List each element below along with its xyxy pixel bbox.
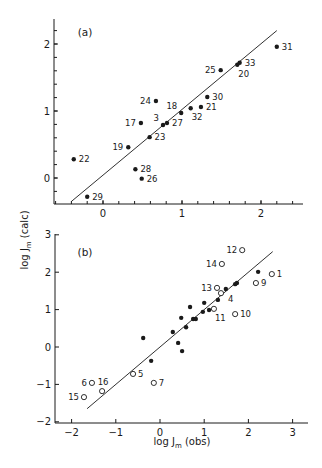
point-label: 3: [154, 113, 159, 123]
filled-data-point: [171, 330, 175, 334]
x-tick-label: 2: [245, 427, 251, 438]
point-label: 33: [245, 58, 256, 68]
panel-a: 012012(a)2229282619231732724183221302520…: [44, 19, 303, 219]
filled-data-point: [199, 105, 203, 109]
point-label: 21: [206, 102, 217, 112]
y-tick-label: −2: [36, 416, 51, 427]
filled-data-point: [179, 111, 183, 115]
point-label: 27: [172, 118, 183, 128]
point-label: 19: [112, 142, 123, 152]
open-data-point: [269, 271, 274, 276]
point-label: 7: [159, 378, 164, 388]
y-tick-label: 3: [45, 229, 51, 240]
filled-data-point: [219, 68, 223, 72]
x-tick-label: 3: [289, 427, 295, 438]
point-label: 9: [261, 278, 266, 288]
point-label: 4: [228, 294, 233, 304]
open-data-point: [233, 311, 238, 316]
open-data-point: [89, 380, 94, 385]
filled-data-point: [85, 195, 89, 199]
figure: 012012(a)2229282619231732724183221302520…: [0, 0, 322, 468]
point-label: 6: [82, 378, 87, 388]
panel-label: (b): [78, 246, 93, 258]
point-label: 30: [212, 92, 223, 102]
y-tick-label: 1: [45, 304, 51, 315]
filled-data-point: [149, 359, 153, 363]
panel-label: (a): [78, 26, 93, 38]
filled-data-point: [235, 281, 239, 285]
filled-data-point: [256, 270, 260, 274]
open-data-point: [240, 248, 245, 253]
filled-data-point: [201, 310, 205, 314]
filled-data-point: [224, 287, 228, 291]
point-label: 16: [98, 377, 109, 387]
point-label: 26: [147, 174, 158, 184]
x-tick-label: −2: [64, 427, 79, 438]
x-tick-label: 2: [258, 208, 264, 219]
point-label: 20: [238, 69, 249, 79]
open-data-point: [253, 280, 258, 285]
panel-b: −2−10123−2−10123(b)14567910111213141516: [36, 229, 308, 438]
open-data-point: [81, 395, 86, 400]
filled-data-point: [165, 121, 169, 125]
point-label: 22: [79, 154, 90, 164]
filled-data-point: [72, 157, 76, 161]
point-label: 10: [240, 309, 251, 319]
filled-data-point: [180, 349, 184, 353]
open-data-point: [211, 306, 216, 311]
filled-data-point: [188, 106, 192, 110]
filled-data-point: [161, 123, 165, 127]
y-axis-title: log Jm (calc): [19, 210, 33, 269]
x-tick-label: 0: [100, 208, 106, 219]
filled-data-point: [207, 308, 211, 312]
filled-data-point: [194, 317, 198, 321]
y-tick-label: 2: [45, 267, 51, 278]
filled-data-point: [126, 145, 130, 149]
y-tick-label: 0: [45, 342, 51, 353]
filled-data-point: [139, 121, 143, 125]
open-data-point: [214, 285, 219, 290]
filled-data-point: [179, 316, 183, 320]
y-tick-label: −1: [36, 379, 51, 390]
open-data-point: [99, 389, 104, 394]
open-data-point: [130, 371, 135, 376]
filled-data-point: [176, 341, 180, 345]
point-label: 24: [140, 96, 151, 106]
point-label: 12: [226, 245, 237, 255]
filled-data-point: [147, 135, 151, 139]
filled-data-point: [141, 336, 145, 340]
x-tick-label: 1: [179, 208, 185, 219]
filled-data-point: [154, 99, 158, 103]
y-tick-label: 2: [44, 39, 50, 50]
point-label: 31: [282, 42, 293, 52]
filled-data-point: [202, 301, 206, 305]
point-label: 18: [166, 101, 177, 111]
point-label: 14: [206, 259, 217, 269]
point-label: 11: [215, 313, 226, 323]
point-label: 17: [125, 118, 136, 128]
y-tick-label: 0: [44, 173, 50, 184]
point-label: 5: [138, 369, 143, 379]
filled-data-point: [140, 176, 144, 180]
regression-line: [71, 31, 276, 202]
filled-data-point: [188, 305, 192, 309]
point-label: 32: [192, 112, 203, 122]
chart-canvas: 012012(a)2229282619231732724183221302520…: [0, 0, 322, 468]
filled-data-point: [237, 61, 241, 65]
filled-data-point: [133, 167, 137, 171]
open-data-point: [151, 380, 156, 385]
point-label: 13: [201, 283, 212, 293]
filled-data-point: [205, 95, 209, 99]
point-label: 23: [155, 132, 166, 142]
open-data-point: [219, 261, 224, 266]
y-tick-label: 1: [44, 106, 50, 117]
point-label: 25: [205, 65, 216, 75]
filled-data-point: [216, 298, 220, 302]
filled-data-point: [184, 325, 188, 329]
axes: [54, 19, 303, 204]
regression-line: [87, 252, 273, 409]
filled-data-point: [275, 44, 279, 48]
x-tick-label: −1: [108, 427, 123, 438]
x-axis-title: log Jm (obs): [154, 436, 211, 450]
point-label: 1: [277, 269, 282, 279]
